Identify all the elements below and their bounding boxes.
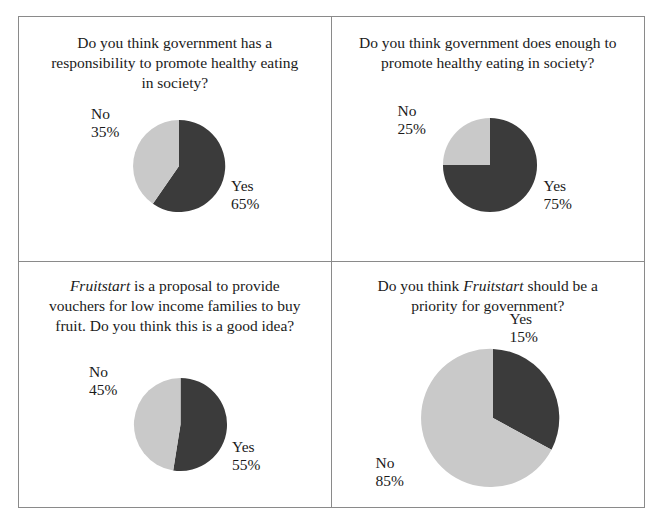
pie-chart-2: [441, 116, 539, 214]
pie-2-label-no: No 25%: [398, 102, 426, 139]
pie-2-svg: [441, 116, 539, 214]
pie-1-label-yes: Yes 65%: [231, 177, 259, 214]
panel-4-question-text-a: Do you think: [378, 277, 464, 294]
pie-1-label-no-name: No: [91, 105, 110, 122]
panel-4-question-italic: Fruitstart: [463, 277, 523, 294]
pie-4-label-yes-pct: 15%: [510, 328, 538, 346]
pie-4-label-no-name: No: [376, 454, 395, 471]
panel-2-question: Do you think government does enough to p…: [332, 33, 645, 73]
pie-3-slice-yes: [173, 378, 227, 471]
pie-chart-4: [421, 346, 565, 490]
pie-2-label-yes-name: Yes: [544, 177, 567, 194]
pie-4-label-no: No 85%: [376, 454, 404, 491]
panel-4-question: Do you think Fruitstart should be a prio…: [332, 276, 645, 316]
pie-3-label-no: No 45%: [89, 363, 117, 400]
pie-3-label-yes: Yes 55%: [232, 438, 260, 475]
panel-3-question-italic: Fruitstart: [70, 277, 130, 294]
survey-pie-figure: Do you think government has a responsibi…: [18, 16, 645, 508]
panel-government-responsibility: Do you think government has a responsibi…: [19, 17, 332, 262]
pie-2-label-no-pct: 25%: [398, 120, 426, 138]
pie-3-label-yes-pct: 55%: [232, 456, 260, 474]
pie-1-label-no: No 35%: [91, 105, 119, 142]
panel-grid: Do you think government has a responsibi…: [19, 17, 644, 507]
pie-3-label-no-pct: 45%: [89, 381, 117, 399]
pie-3-label-no-name: No: [89, 363, 108, 380]
pie-3-svg: [132, 376, 229, 473]
panel-1-question: Do you think government has a responsibi…: [19, 33, 331, 92]
pie-chart-3: [132, 376, 229, 473]
pie-4-label-no-pct: 85%: [376, 472, 404, 490]
pie-2-label-no-name: No: [398, 102, 417, 119]
panel-3-question: Fruitstart is a proposal to provide vouc…: [19, 276, 331, 335]
pie-3-slice-no: [134, 378, 181, 471]
pie-1-label-yes-name: Yes: [231, 177, 254, 194]
panel-fruitstart-priority: Do you think Fruitstart should be a prio…: [332, 262, 645, 507]
pie-1-label-yes-pct: 65%: [231, 195, 259, 213]
pie-chart-1: [131, 118, 227, 214]
pie-2-slice-no: [442, 118, 489, 165]
pie-3-label-yes-name: Yes: [232, 438, 255, 455]
pie-1-svg: [131, 118, 227, 214]
panel-2-question-text: Do you think government does enough to p…: [359, 34, 616, 71]
pie-4-label-yes: Yes 15%: [510, 310, 538, 347]
pie-4-svg: [421, 346, 565, 490]
panel-1-question-text: Do you think government has a responsibi…: [51, 34, 298, 91]
panel-fruitstart-good-idea: Fruitstart is a proposal to provide vouc…: [19, 262, 332, 507]
pie-1-label-no-pct: 35%: [91, 123, 119, 141]
pie-2-label-yes: Yes 75%: [544, 177, 572, 214]
pie-2-label-yes-pct: 75%: [544, 195, 572, 213]
panel-government-does-enough: Do you think government does enough to p…: [332, 17, 645, 262]
pie-4-label-yes-name: Yes: [510, 310, 533, 327]
